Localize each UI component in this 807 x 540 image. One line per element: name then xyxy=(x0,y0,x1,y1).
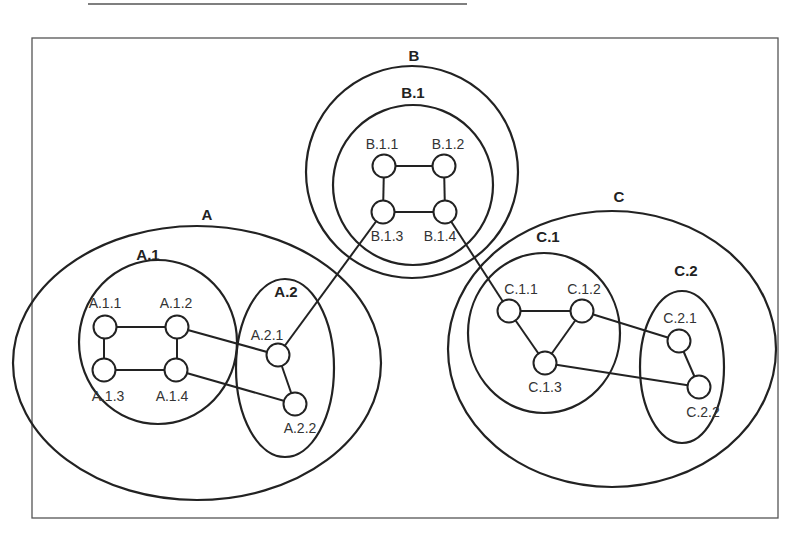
label-b-1-3: B.1.3 xyxy=(371,228,404,244)
node-a-1-1 xyxy=(94,316,117,339)
label-a-1-2: A.1.2 xyxy=(160,295,193,311)
label-b-1-2: B.1.2 xyxy=(432,136,465,152)
node-c-2-2 xyxy=(688,376,711,399)
label-c-2-1: C.2.1 xyxy=(663,310,697,326)
cluster-b1-outline xyxy=(333,105,493,265)
label-c: C xyxy=(614,188,625,205)
node-b-1-2 xyxy=(433,155,456,178)
node-c-2-1 xyxy=(668,330,691,353)
label-a-1-3: A.1.3 xyxy=(92,388,125,404)
edges xyxy=(104,166,699,404)
label-c-1-1: C.1.1 xyxy=(504,281,538,297)
node-c-1-1 xyxy=(498,300,521,323)
label-b1: B.1 xyxy=(401,84,424,101)
label-b-1-4: B.1.4 xyxy=(424,228,457,244)
node-b-1-3 xyxy=(372,201,395,224)
label-a: A xyxy=(202,206,213,223)
node-a-1-3 xyxy=(93,359,116,382)
label-c-1-2: C.1.2 xyxy=(567,281,601,297)
label-a1: A.1 xyxy=(136,246,159,263)
label-a-2-2: A.2.2 xyxy=(284,420,317,436)
node-b-1-4 xyxy=(434,201,457,224)
label-a-1-4: A.1.4 xyxy=(156,388,189,404)
label-a2: A.2 xyxy=(274,283,297,300)
label-c-1-3: C.1.3 xyxy=(528,379,562,395)
label-b-1-1: B.1.1 xyxy=(366,136,399,152)
node-a-2-2 xyxy=(284,393,307,416)
node-c-1-2 xyxy=(571,300,594,323)
node-c-1-3 xyxy=(534,352,557,375)
cluster-a-outline xyxy=(13,226,381,500)
label-c2: C.2 xyxy=(674,262,697,279)
label-b: B xyxy=(409,47,420,64)
node-b-1-1 xyxy=(373,155,396,178)
node-a-2-1 xyxy=(267,344,290,367)
label-a-1-1: A.1.1 xyxy=(89,295,122,311)
cluster-c-outline xyxy=(448,211,776,487)
node-a-1-2 xyxy=(166,316,189,339)
label-c1: C.1 xyxy=(536,228,559,245)
node-a-1-4 xyxy=(165,359,188,382)
cluster-diagram: A A.1 A.2 B B.1 C C.1 C.2 A.1.1 A.1.2 A.… xyxy=(0,0,807,540)
label-a-2-1: A.2.1 xyxy=(251,327,284,343)
label-c-2-2: C.2.2 xyxy=(686,404,720,420)
